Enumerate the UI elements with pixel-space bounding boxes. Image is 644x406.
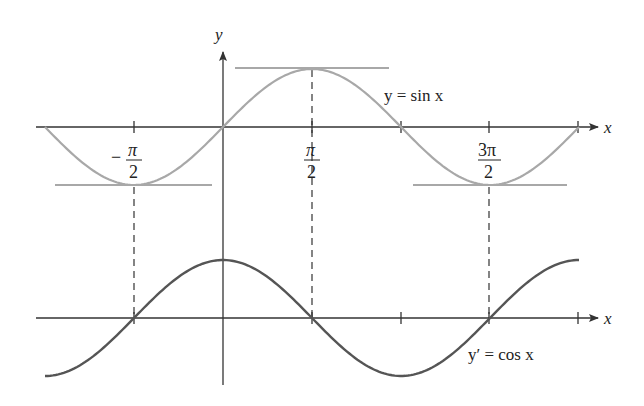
tick-label-three-half-pi: 3π 2 bbox=[478, 140, 501, 182]
cos-curve-label: y′ = cos x bbox=[468, 345, 534, 364]
sin-curve-label: y = sin x bbox=[384, 86, 444, 105]
svg-text:2: 2 bbox=[307, 162, 316, 182]
y-axis-label: y bbox=[213, 25, 223, 44]
svg-text:2: 2 bbox=[129, 162, 138, 182]
tick-label-neg-half-pi: − π 2 bbox=[111, 140, 142, 182]
svg-text:π: π bbox=[128, 140, 138, 160]
svg-text:3π: 3π bbox=[478, 140, 496, 160]
dashed-guides bbox=[134, 70, 489, 318]
derivative-diagram: y x x y = sin x y′ = cos x − π 2 π 2 3π … bbox=[0, 0, 644, 406]
top-x-axis-label: x bbox=[603, 118, 612, 137]
svg-text:2: 2 bbox=[484, 162, 493, 182]
svg-text:−: − bbox=[111, 147, 121, 167]
bottom-x-axis-label: x bbox=[603, 309, 612, 328]
svg-text:π: π bbox=[306, 140, 316, 160]
diagram-svg: y x x y = sin x y′ = cos x − π 2 π 2 3π … bbox=[0, 0, 644, 406]
